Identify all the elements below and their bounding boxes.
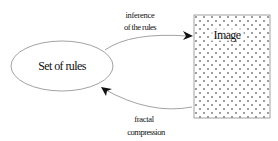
diagram-canvas: Set of rules Image inference of the rule… [0,0,278,141]
image-label: Image [214,28,241,42]
compression-label-1: fractal [134,114,155,124]
compression-arrow-line [104,89,192,109]
inference-arrow-line [105,35,188,50]
inference-label-1: inference [126,10,155,20]
edge-inference: inference of the rules [105,10,193,50]
inference-label-2: of the rules [124,22,156,32]
compression-label-2: compression [127,127,166,137]
compression-arrowhead-icon [101,87,112,96]
edge-fractal-compression: fractal compression [101,87,192,137]
node-set-of-rules: Set of rules [11,41,113,91]
rules-label: Set of rules [38,59,86,73]
node-image: Image [194,15,270,118]
